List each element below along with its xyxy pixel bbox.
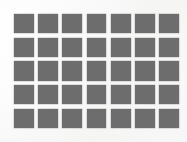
grid-square: [111, 85, 131, 104]
grid-square: [14, 61, 34, 80]
grid-square: [159, 85, 179, 104]
grid-square: [38, 38, 58, 57]
grid-square: [38, 85, 58, 104]
grid-square: [38, 61, 58, 80]
grid-square: [111, 61, 131, 80]
grid-square: [14, 85, 34, 104]
grid-square: [111, 109, 131, 128]
grid-square: [159, 109, 179, 128]
grid-square: [87, 38, 107, 57]
grid-square: [14, 38, 34, 57]
grid-square: [87, 61, 107, 80]
grid-square: [135, 61, 155, 80]
grid-square: [62, 14, 82, 33]
grid-square: [62, 109, 82, 128]
square-grid: [14, 14, 179, 128]
grid-square: [87, 109, 107, 128]
grid-square: [111, 38, 131, 57]
grid-square: [159, 38, 179, 57]
grid-square: [135, 14, 155, 33]
grid-square: [62, 38, 82, 57]
grid-square: [135, 109, 155, 128]
grid-square: [14, 109, 34, 128]
grid-square: [159, 14, 179, 33]
grid-square: [135, 38, 155, 57]
grid-square: [62, 85, 82, 104]
grid-square: [38, 109, 58, 128]
grid-square: [62, 61, 82, 80]
grid-square: [87, 14, 107, 33]
grid-square: [14, 14, 34, 33]
grid-square: [159, 61, 179, 80]
grid-square: [111, 14, 131, 33]
grid-square: [87, 85, 107, 104]
image-canvas: [0, 0, 187, 142]
grid-square: [38, 14, 58, 33]
grid-square: [135, 85, 155, 104]
